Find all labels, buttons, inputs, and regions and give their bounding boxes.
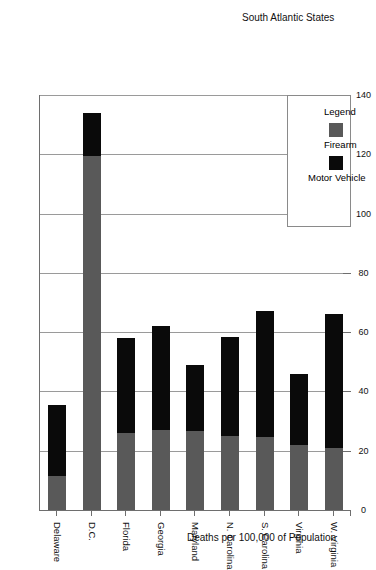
bar-segment-firearm: [48, 476, 66, 510]
x-axis-tick: [229, 510, 230, 516]
bar-segment-motor-vehicle: [187, 365, 205, 432]
bar-segment-motor-vehicle: [48, 405, 66, 476]
x-axis-category-label: Georgia: [156, 522, 166, 556]
bar-segment-firearm: [152, 430, 170, 510]
bar-segment-firearm: [290, 445, 308, 510]
y-axis-tick-label: 60: [349, 328, 376, 337]
x-axis-tick: [91, 510, 92, 516]
x-axis-tick: [264, 510, 265, 516]
y-axis-tick-label: 80: [349, 268, 376, 277]
bar-segment-motor-vehicle: [221, 337, 239, 436]
bar: [187, 365, 205, 510]
bar: [221, 337, 239, 510]
bar: [152, 326, 170, 510]
x-axis-end-tick: [350, 510, 351, 516]
x-axis-title: South Atlantic States: [242, 13, 334, 23]
y-axis-tick-label: 140: [349, 91, 376, 100]
x-axis-category-label: Delaware: [52, 522, 62, 562]
bar-segment-firearm: [187, 431, 205, 510]
legend-label-motor-vehicle: Motor Vehicle: [308, 173, 366, 183]
x-axis-tick: [125, 510, 126, 516]
x-axis-tick: [333, 510, 334, 516]
bar-segment-motor-vehicle: [83, 113, 101, 156]
legend-label-firearm: Firearm: [324, 140, 357, 150]
bar: [256, 311, 274, 510]
x-axis-tick: [160, 510, 161, 516]
bar-segment-firearm: [83, 156, 101, 510]
bar-segment-firearm: [117, 433, 135, 510]
category-axis-line: [39, 95, 40, 511]
bar: [117, 338, 135, 510]
x-axis-category-label: D.C.: [87, 522, 97, 541]
bar: [83, 113, 101, 510]
y-axis-tick-label: 120: [349, 150, 376, 159]
x-axis-tick: [195, 510, 196, 516]
bar-segment-firearm: [256, 437, 274, 510]
bar-segment-firearm: [221, 436, 239, 510]
y-axis-tick-label: 0: [349, 506, 376, 515]
bar-segment-motor-vehicle: [117, 338, 135, 433]
legend-title: Legend: [324, 107, 356, 117]
bar-segment-motor-vehicle: [256, 311, 274, 437]
y-axis-tick-label: 100: [349, 209, 376, 218]
x-axis-tick: [56, 510, 57, 516]
bar-segment-motor-vehicle: [325, 314, 343, 447]
bar-segment-motor-vehicle: [290, 374, 308, 445]
y-axis-tick-label: 20: [349, 446, 376, 455]
x-axis-category-label: Florida: [121, 522, 131, 551]
legend-swatch-motor-vehicle: [329, 156, 343, 170]
bar-segment-motor-vehicle: [152, 326, 170, 430]
x-axis-category-label: W. Virginia: [329, 522, 339, 567]
y-axis-title: Deaths per 100,000 of Population: [187, 533, 336, 543]
y-axis-tick-label: 40: [349, 387, 376, 396]
x-axis-category-label: N. Carolina: [225, 522, 235, 570]
bar-segment-firearm: [325, 448, 343, 510]
x-axis-category-label: S. Carolina: [260, 522, 270, 569]
bar: [48, 405, 66, 510]
legend-swatch-firearm: [329, 123, 343, 137]
x-axis-tick: [298, 510, 299, 516]
bar: [290, 374, 308, 510]
bar: [325, 314, 343, 510]
